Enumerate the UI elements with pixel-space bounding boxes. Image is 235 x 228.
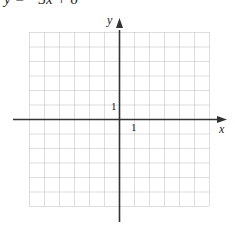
coordinate-grid [0,0,235,228]
y-axis-label: y [107,13,112,28]
x-tick-label: 1 [131,121,137,133]
y-axis-arrow-icon [116,18,123,28]
x-axis-label: x [219,122,224,137]
y-tick-label: 1 [111,100,117,112]
